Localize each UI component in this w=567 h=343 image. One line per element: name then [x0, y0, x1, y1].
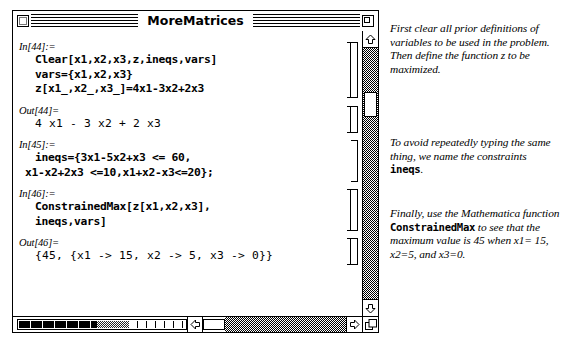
cell-label: In[44]:= — [13, 40, 362, 53]
scroll-down-arrow-icon[interactable] — [363, 300, 378, 316]
vertical-scroll-thumb[interactable] — [364, 92, 377, 117]
cell-bracket[interactable] — [351, 106, 358, 133]
cell-list: In[44]:= Clear[x1,x2,x3,z,ineqs,vars] va… — [13, 31, 362, 269]
cell-bracket[interactable] — [351, 42, 358, 98]
window-body: In[44]:= Clear[x1,x2,x3,z,ineqs,vars] va… — [13, 31, 378, 332]
annotation-definitions: First clear all prior definitions of var… — [390, 22, 567, 76]
horizontal-scroll-thumb[interactable] — [203, 319, 225, 330]
cell-bracket[interactable] — [351, 238, 358, 265]
vertical-scrollbar[interactable] — [362, 31, 378, 316]
annotation-constraints: To avoid repeatedly typing the same thin… — [390, 136, 562, 177]
page-indicator-dither — [97, 321, 129, 328]
vertical-scroll-track[interactable] — [363, 47, 378, 300]
cell-in-44[interactable]: In[44]:= Clear[x1,x2,x3,z,ineqs,vars] va… — [13, 40, 362, 103]
annotation-text: To avoid repeatedly typing the same thin… — [390, 136, 550, 162]
window-title: MoreMatrices — [140, 11, 250, 31]
screenshot-root: MoreMatrices In[44]:= Clear[x1,x2,x3,z,i… — [0, 0, 567, 343]
horizontal-scrollbar[interactable] — [13, 316, 362, 332]
window-titlebar[interactable]: MoreMatrices — [13, 11, 378, 32]
cell-label: In[46]:= — [13, 187, 362, 200]
annotation-constrainedmax: Finally, use the Mathematica function Co… — [390, 207, 565, 261]
cell-label: Out[46]= — [13, 236, 362, 249]
cell-out-46[interactable]: Out[46]= {45, {x1 -> 15, x2 -> 5, x3 -> … — [13, 236, 362, 269]
cell-out-44[interactable]: Out[44]= 4 x1 - 3 x2 + 2 x3 — [13, 104, 362, 137]
titlebar-stripes-right — [253, 14, 360, 28]
cell-code-line: Clear[x1,x2,x3,z,ineqs,vars] — [13, 53, 362, 68]
cell-code-line: vars={x1,x2,x3} — [13, 68, 362, 83]
cell-code-line: ineqs,vars] — [13, 215, 362, 230]
cell-label: In[45]:= — [13, 138, 362, 151]
close-box-icon[interactable] — [17, 15, 29, 27]
page-indicator-ticks — [129, 321, 185, 328]
horizontal-scroll-track[interactable] — [225, 317, 362, 332]
cell-bracket[interactable] — [351, 189, 358, 231]
annotation-code: ConstrainedMax — [390, 221, 475, 233]
cell-code-line: z[x1_,x2_,x3_]=4x1-3x2+2x3 — [13, 82, 362, 97]
scroll-left-arrow-icon[interactable] — [187, 317, 203, 332]
notebook-pane[interactable]: In[44]:= Clear[x1,x2,x3,z,ineqs,vars] va… — [13, 31, 362, 316]
grow-box-icon[interactable] — [362, 316, 378, 332]
scroll-up-arrow-icon[interactable] — [363, 31, 378, 47]
annotation-code: ineqs — [390, 163, 420, 175]
cell-code-line: {45, {x1 -> 15, x2 -> 5, x3 -> 0}} — [13, 249, 362, 264]
annotation-text: . — [420, 163, 423, 175]
titlebar-stripes-left — [31, 14, 138, 28]
cell-label: Out[44]= — [13, 104, 362, 117]
annotation-text: Finally, use the Mathematica function — [390, 207, 559, 219]
cell-code-line: 4 x1 - 3 x2 + 2 x3 — [13, 117, 362, 132]
zoom-box-icon[interactable] — [362, 15, 374, 27]
cell-in-46[interactable]: In[46]:= ConstrainedMax[z[x1,x2,x3], ine… — [13, 187, 362, 235]
margin-annotations: First clear all prior definitions of var… — [390, 0, 567, 343]
page-indicator-bar[interactable] — [17, 319, 187, 330]
notebook-window: MoreMatrices In[44]:= Clear[x1,x2,x3,z,i… — [12, 10, 379, 333]
cell-bracket[interactable] — [351, 140, 358, 182]
cell-code-line: x1-x2+2x3 <=10,x1+x2-x3<=20}; — [13, 166, 362, 181]
cell-code-line: ConstrainedMax[z[x1,x2,x3], — [13, 200, 362, 215]
scroll-right-arrow-icon[interactable] — [346, 316, 362, 332]
cell-code-line: ineqs={3x1-5x2+x3 <= 60, — [13, 151, 362, 166]
page-indicator-filled — [19, 321, 97, 328]
cell-in-45[interactable]: In[45]:= ineqs={3x1-5x2+x3 <= 60, x1-x2+… — [13, 138, 362, 186]
